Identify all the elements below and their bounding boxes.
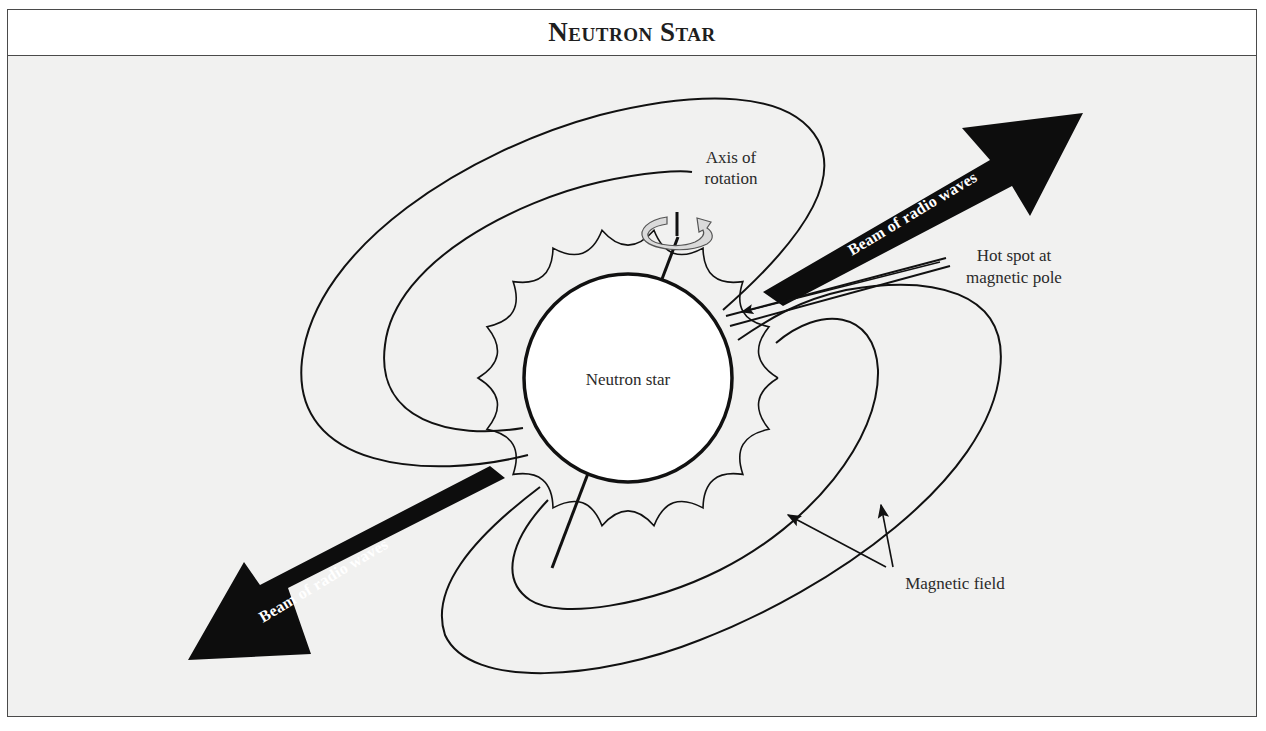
neutron-star-diagram: Beam of radio waves Beam of radio waves … bbox=[0, 0, 1266, 731]
star-label: Neutron star bbox=[586, 370, 671, 389]
svg-text:rotation: rotation bbox=[705, 169, 758, 188]
axis-of-rotation-label: Axis of rotation bbox=[705, 148, 758, 188]
svg-text:Magnetic field: Magnetic field bbox=[905, 574, 1005, 593]
radio-beam-lower: Beam of radio waves bbox=[188, 466, 505, 660]
svg-text:Hot spot at: Hot spot at bbox=[977, 246, 1052, 265]
svg-text:magnetic pole: magnetic pole bbox=[966, 268, 1062, 287]
svg-text:Axis of: Axis of bbox=[706, 148, 757, 167]
